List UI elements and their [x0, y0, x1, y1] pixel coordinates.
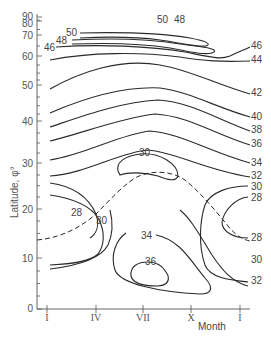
x-axis-title: Month [198, 321, 226, 332]
label-left-30: 30 [96, 215, 108, 226]
contour-40 [50, 88, 250, 117]
label-right-28b: 28 [251, 232, 263, 243]
label-right-30: 30 [251, 181, 263, 192]
label-left-46: 46 [44, 42, 56, 53]
label-right-40: 40 [251, 111, 263, 122]
y-tick-0: 0 [27, 303, 33, 314]
contour-chart: 0 10 20 30 40 50 60 70 80 90 Latitude, φ… [0, 0, 271, 340]
y-major-ticks [37, 17, 42, 309]
label-right-38: 38 [251, 124, 263, 135]
y-tick-30: 30 [22, 158, 34, 169]
x-tick-jul: VII [136, 312, 150, 323]
y-axis-title: Latitude, φ° [9, 166, 20, 218]
contour-30-right [200, 186, 248, 282]
label-center-34: 34 [141, 230, 153, 241]
label-right-32b: 32 [251, 275, 263, 286]
label-left-28: 28 [71, 207, 83, 218]
label-center-30: 30 [139, 147, 151, 158]
label-right-42: 42 [251, 87, 263, 98]
label-right-30b: 30 [251, 254, 263, 265]
y-tick-20: 20 [22, 204, 34, 215]
label-right-46: 46 [251, 40, 263, 51]
x-tick-jan2: I [238, 312, 241, 323]
y-tick-50: 50 [22, 80, 34, 91]
label-right-28a: 28 [251, 192, 263, 203]
x-tick-oct: X [187, 312, 195, 323]
label-right-34: 34 [251, 157, 263, 168]
x-tick-apr: IV [91, 312, 102, 323]
y-tick-40: 40 [22, 116, 34, 127]
y-tick-70: 70 [22, 30, 34, 41]
y-tick-10: 10 [22, 253, 34, 264]
label-left-48: 48 [56, 35, 68, 46]
label-right-44: 44 [251, 54, 263, 65]
contour-46 [56, 46, 250, 58]
y-tick-90: 90 [22, 11, 34, 22]
contour-34-closed [113, 233, 210, 294]
label-top-48: 48 [174, 14, 186, 25]
label-right-36: 36 [251, 138, 263, 149]
contour-28-right [222, 197, 248, 238]
label-left-50: 50 [66, 27, 78, 38]
x-tick-jan: I [45, 312, 48, 323]
label-center-36: 36 [145, 256, 157, 267]
contour-30-left [50, 195, 103, 265]
y-tick-60: 60 [22, 51, 34, 62]
contour-lines [50, 33, 250, 294]
contour-42 [50, 63, 250, 94]
contour-38 [50, 100, 250, 131]
label-top-50: 50 [157, 14, 169, 25]
label-right-32: 32 [251, 170, 263, 181]
